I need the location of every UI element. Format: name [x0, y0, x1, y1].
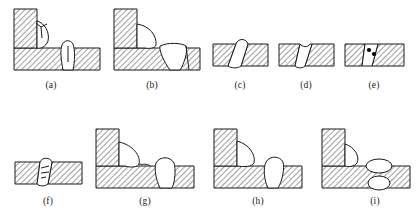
panel-f-plate-left [15, 162, 40, 184]
caption-i: (i) [355, 196, 395, 206]
panel-g-vertical-plate [96, 129, 119, 166]
panel-f [15, 158, 82, 186]
caption-d: (d) [286, 80, 326, 90]
panel-c [213, 40, 268, 68]
caption-g: (g) [125, 196, 165, 206]
panel-f-plate-right [48, 162, 82, 184]
panel-h-weld-bead-right [264, 157, 283, 188]
panel-b-fillet-weld [137, 24, 156, 48]
panel-a-horizontal-plate [14, 48, 100, 70]
panel-g-weld-bead-right [155, 158, 175, 188]
panel-b [114, 9, 200, 70]
panel-h-horizontal-plate [214, 166, 302, 188]
panel-i-horizontal-plate [322, 166, 410, 188]
panel-i-weld-bead-lower [368, 176, 390, 190]
panel-d [279, 44, 334, 68]
weld-defect-figure: (a) (b) (c) (d) (e) (f) (g) (h) (i) [0, 0, 417, 222]
panel-i-fillet-weld [345, 144, 358, 167]
panel-b-vertical-plate [114, 9, 137, 48]
caption-f: (f) [28, 196, 68, 206]
panel-i [322, 129, 410, 190]
figure-canvas [0, 0, 417, 222]
caption-c: (c) [220, 80, 260, 90]
caption-b: (b) [132, 80, 172, 90]
panel-a [14, 9, 100, 70]
panel-g-horizontal-plate [96, 166, 194, 188]
caption-h: (h) [238, 196, 278, 206]
panel-h-vertical-plate [214, 129, 237, 166]
panel-i-weld-bead-upper [366, 159, 392, 173]
panel-h-fillet-weld [237, 141, 254, 167]
caption-e: (e) [354, 80, 394, 90]
panel-e-porosity-1 [367, 48, 371, 52]
panel-a-vertical-plate [14, 9, 37, 48]
panel-g-fillet-weld [119, 142, 139, 167]
panel-e [345, 44, 404, 66]
panel-g [96, 129, 194, 188]
panel-i-vertical-plate [322, 129, 345, 166]
panel-e-porosity-2 [372, 52, 376, 56]
caption-a: (a) [31, 80, 71, 90]
panel-h [214, 129, 302, 188]
